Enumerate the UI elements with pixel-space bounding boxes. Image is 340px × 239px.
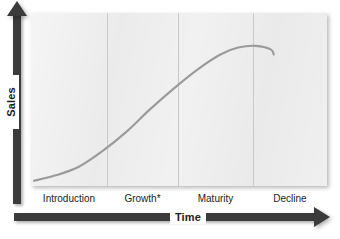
arrow-right-icon xyxy=(314,207,330,227)
sales-curve xyxy=(31,13,327,186)
x-axis-label: Time xyxy=(170,210,206,224)
plot-area xyxy=(31,13,327,186)
arrow-up-icon xyxy=(7,1,27,16)
y-axis-label: Sales xyxy=(3,75,19,129)
product-life-cycle-chart: Sales Time Introduction Growth* Maturity… xyxy=(0,0,340,239)
x-axis-bar xyxy=(14,213,318,221)
stage-label-growth: Growth* xyxy=(107,193,178,204)
stage-label-introduction: Introduction xyxy=(31,193,107,204)
stage-label-maturity: Maturity xyxy=(178,193,253,204)
stage-label-decline: Decline xyxy=(253,193,327,204)
